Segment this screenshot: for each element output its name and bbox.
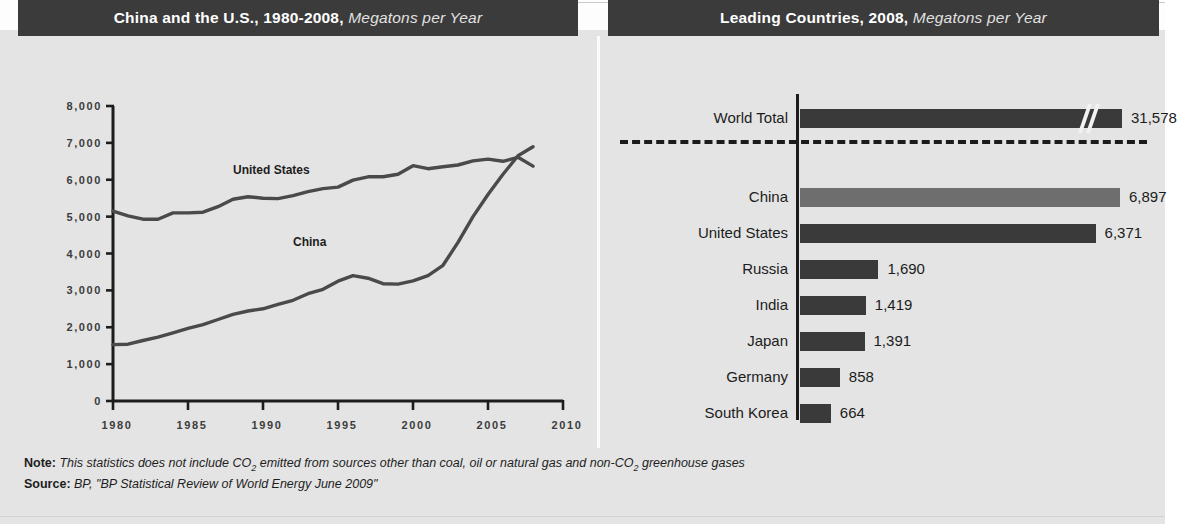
bottom-divider-rule xyxy=(0,516,1165,517)
x-tick-label: 1990 xyxy=(252,419,283,431)
bar-value-label: 6,897 xyxy=(1129,184,1167,210)
source-text: BP, "BP Statistical Review of World Ener… xyxy=(71,477,378,491)
bar-rect xyxy=(800,224,1096,243)
bar-row: Russia1,690 xyxy=(602,256,1165,282)
x-tick-label: 2000 xyxy=(402,419,433,431)
bar-value-label: 664 xyxy=(840,400,865,426)
bar-category-label: India xyxy=(602,292,788,318)
right-panel-title: Leading Countries, 2008, Megatons per Ye… xyxy=(608,0,1159,36)
y-tick-label: 6,000 xyxy=(66,174,102,186)
y-tick-label: 5,000 xyxy=(66,211,102,223)
left-panel-title-main: China and the U.S., 1980-2008, xyxy=(114,9,344,26)
x-tick-label: 2005 xyxy=(477,419,508,431)
series-label-united-states: United States xyxy=(233,163,310,177)
bar-category-label: Russia xyxy=(602,256,788,282)
line-chart: 01,0002,0003,0004,0005,0006,0007,0008,00… xyxy=(18,76,596,446)
y-tick-label: 2,000 xyxy=(66,321,102,333)
bar-rect xyxy=(800,404,831,423)
y-axis-tick-labels: 01,0002,0003,0004,0005,0006,0007,0008,00… xyxy=(66,100,102,407)
y-tick-label: 3,000 xyxy=(66,284,102,296)
bar-row: China6,897 xyxy=(602,184,1165,210)
bar-category-label: World Total xyxy=(602,105,788,131)
bar-rect xyxy=(800,296,866,315)
y-tick-label: 7,000 xyxy=(66,137,102,149)
right-panel-title-unit: Megatons per Year xyxy=(908,9,1047,26)
y-tick-label: 0 xyxy=(94,395,102,407)
note-line: Note: This statistics does not include C… xyxy=(24,455,1134,476)
panel-divider xyxy=(597,36,600,448)
source-line: Source: BP, "BP Statistical Review of Wo… xyxy=(24,476,1134,492)
bar-rect xyxy=(800,332,865,351)
series-line-united-states xyxy=(113,157,533,219)
bar-value-label: 6,371 xyxy=(1105,220,1143,246)
x-axis-tick-labels: 1980198519901995200020052010 xyxy=(102,419,583,431)
bar-value-label: 858 xyxy=(849,364,874,390)
footnotes: Note: This statistics does not include C… xyxy=(24,455,1134,492)
bar-chart: World Total31,578China6,897United States… xyxy=(602,80,1165,446)
y-tick-label: 4,000 xyxy=(66,248,102,260)
bar-row: Japan1,391 xyxy=(602,328,1165,354)
series-label-china: China xyxy=(293,235,327,249)
bar-row: United States6,371 xyxy=(602,220,1165,246)
bar-row: World Total31,578 xyxy=(602,105,1165,131)
note-text-c: greenhouse gases xyxy=(639,456,745,470)
bar-category-label: United States xyxy=(602,220,788,246)
bar-rect xyxy=(800,188,1120,207)
bar-category-label: Japan xyxy=(602,328,788,354)
x-tick-label: 1980 xyxy=(102,419,133,431)
bar-category-label: South Korea xyxy=(602,400,788,426)
x-tick-label: 2010 xyxy=(552,419,583,431)
bar-value-label: 1,419 xyxy=(875,292,913,318)
note-text-a: This statistics does not include CO xyxy=(56,456,251,470)
line-chart-svg: 01,0002,0003,0004,0005,0006,0007,0008,00… xyxy=(18,76,596,446)
x-tick-label: 1995 xyxy=(327,419,358,431)
y-tick-label: 1,000 xyxy=(66,358,102,370)
left-panel-title: China and the U.S., 1980-2008, Megatons … xyxy=(18,0,578,36)
y-tick-label: 8,000 xyxy=(66,100,102,112)
note-lead: Note: xyxy=(24,456,56,470)
world-total-separator xyxy=(620,140,1147,144)
bar-row: India1,419 xyxy=(602,292,1165,318)
bar-category-label: Germany xyxy=(602,364,788,390)
bar-row: South Korea664 xyxy=(602,400,1165,426)
bar-rect xyxy=(800,368,840,387)
bar-row: Germany858 xyxy=(602,364,1165,390)
note-text-b: emitted from sources other than coal, oi… xyxy=(256,456,633,470)
bar-value-label: 1,391 xyxy=(874,328,912,354)
x-tick-label: 1985 xyxy=(177,419,208,431)
source-lead: Source: xyxy=(24,477,71,491)
bar-value-label: 1,690 xyxy=(887,256,925,282)
bar-rect xyxy=(800,260,878,279)
right-panel-title-main: Leading Countries, 2008, xyxy=(720,9,908,26)
bar-category-label: China xyxy=(602,184,788,210)
left-panel-title-unit: Megatons per Year xyxy=(344,9,483,26)
bar-value-label: 31,578 xyxy=(1131,105,1177,131)
bar-rect xyxy=(800,109,1122,128)
